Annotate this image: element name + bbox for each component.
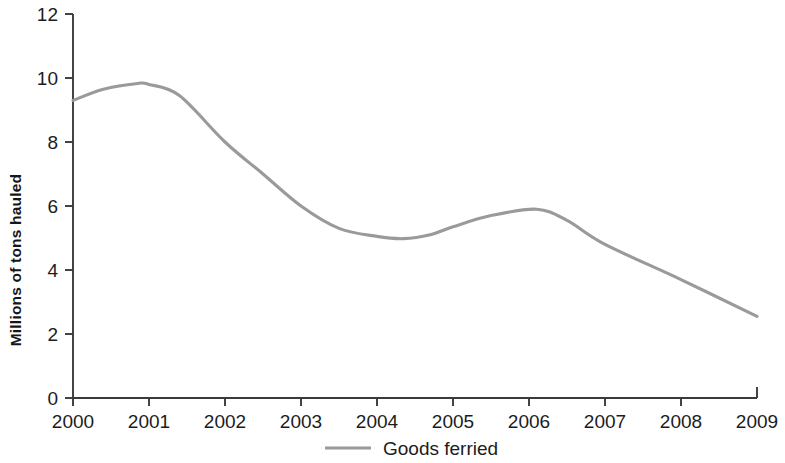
line-chart-canvas: Millions of tons hauled 024681012 200020… (0, 0, 785, 463)
x-axis-tick-label: 2001 (128, 411, 170, 432)
y-axis-title: Millions of tons hauled (7, 174, 24, 347)
x-axis-tick-label: 2002 (204, 411, 246, 432)
chart-background (0, 0, 785, 463)
y-axis-tick-label: 8 (47, 132, 58, 153)
x-axis-tick-label: 2009 (736, 411, 778, 432)
chart-figure: Millions of tons hauled 024681012 200020… (0, 0, 785, 463)
y-axis-tick-label: 2 (47, 324, 58, 345)
x-axis-tick-label: 2006 (508, 411, 550, 432)
x-axis-tick-label: 2005 (432, 411, 474, 432)
legend-label-goods-ferried: Goods ferried (383, 438, 498, 459)
x-axis-tick-label: 2004 (356, 411, 399, 432)
y-axis-tick-label: 12 (37, 4, 58, 25)
x-axis-tick-label: 2008 (660, 411, 702, 432)
x-axis-tick-label: 2000 (52, 411, 94, 432)
x-axis-tick-label: 2003 (280, 411, 322, 432)
y-axis-tick-label: 10 (37, 68, 58, 89)
y-axis-tick-label: 4 (47, 260, 58, 281)
x-axis-tick-label: 2007 (584, 411, 626, 432)
y-axis-tick-label: 6 (47, 196, 58, 217)
y-axis-tick-label: 0 (47, 388, 58, 409)
